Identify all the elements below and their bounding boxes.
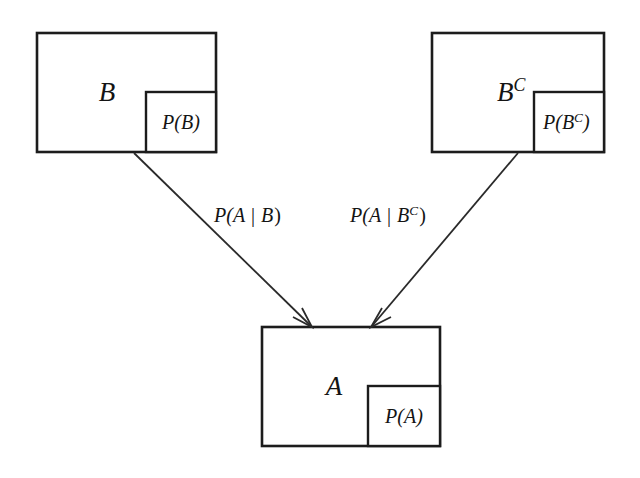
edge-b-to-a <box>134 153 312 327</box>
edge-bc-to-a-label: P(A|BC) <box>349 203 426 227</box>
diagram-canvas: B P(B) BC P(BC) A P(A) <box>0 0 640 478</box>
node-bc: BC P(BC) <box>432 33 604 152</box>
node-a: A P(A) <box>262 327 440 446</box>
node-a-set-label: A <box>324 371 343 401</box>
edge-b-to-a-line <box>134 153 311 326</box>
edge-bc-to-a <box>371 153 518 327</box>
edge-b-to-a-label: P(A|B) <box>213 204 281 227</box>
node-b-prob-label: P(B) <box>161 111 200 134</box>
probability-diagram: B P(B) BC P(BC) A P(A) <box>0 0 640 478</box>
node-a-prob-label: P(A) <box>384 405 423 428</box>
node-bc-prob-label: P(BC) <box>542 110 590 134</box>
node-b: B P(B) <box>37 33 216 152</box>
edge-bc-to-a-line <box>372 153 518 326</box>
node-b-set-label: B <box>99 77 116 107</box>
